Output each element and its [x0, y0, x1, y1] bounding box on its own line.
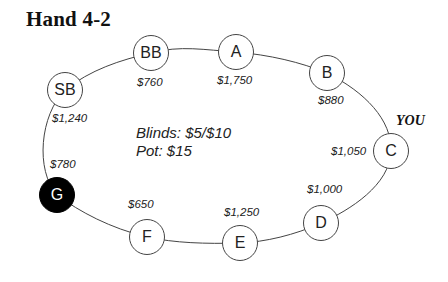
pot-text: Pot: $15 [136, 142, 231, 160]
seat-label: F [142, 228, 152, 246]
seat-label: C [385, 142, 397, 160]
table-info: Blinds: $5/$10 Pot: $15 [136, 124, 231, 160]
seat-bb: BB [133, 35, 169, 71]
seat-c-hero: C [373, 133, 409, 169]
stack-c: $1,050 [331, 145, 366, 157]
seat-d: D [303, 205, 339, 241]
stack-sb: $1,240 [52, 112, 87, 124]
seat-e: E [222, 225, 258, 261]
seat-sb: SB [47, 72, 83, 108]
stack-g: $780 [50, 158, 76, 170]
seat-label: SB [54, 81, 75, 99]
seat-label: E [235, 234, 246, 252]
stack-f: $650 [128, 198, 154, 210]
stack-e: $1,250 [224, 206, 259, 218]
seat-label: B [322, 64, 333, 82]
stack-d: $1,000 [307, 183, 342, 195]
hero-label: YOU [396, 113, 425, 129]
stack-bb: $760 [137, 76, 163, 88]
seat-a: A [218, 34, 254, 70]
seat-label: A [231, 43, 242, 61]
blinds-text: Blinds: $5/$10 [136, 124, 231, 142]
seat-label: D [315, 214, 327, 232]
stack-a: $1,750 [217, 74, 252, 86]
seat-g-dealer: G [39, 177, 75, 213]
seat-b: B [309, 55, 345, 91]
seat-label: BB [140, 44, 161, 62]
seat-label: G [51, 186, 63, 204]
seat-f: F [129, 219, 165, 255]
stack-b: $880 [318, 94, 344, 106]
